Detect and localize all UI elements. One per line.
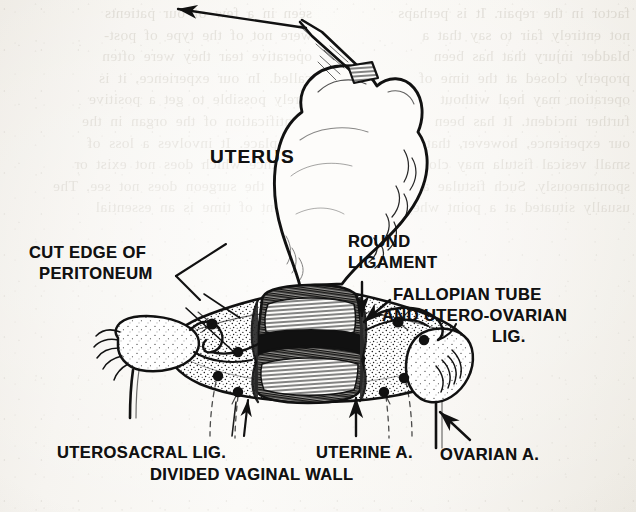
label-cut-edge-of: CUT EDGE OF bbox=[29, 244, 146, 261]
label-round: ROUND bbox=[348, 233, 411, 250]
illustration-figure: seen in a few of our patients were not o… bbox=[0, 0, 636, 512]
traction-arrow bbox=[178, 9, 306, 28]
label-uterus: UTERUS bbox=[210, 147, 295, 167]
label-and-utero-ovarian: AND UTERO-OVARIAN bbox=[382, 307, 567, 324]
label-ligament: LIGAMENT bbox=[348, 254, 437, 271]
leader-cut-edge-lower bbox=[176, 276, 200, 300]
label-divided-vaginal-wall: DIVIDED VAGINAL WALL bbox=[150, 466, 354, 483]
label-lig: LIG. bbox=[492, 328, 526, 345]
label-uterine-artery: UTERINE A. bbox=[316, 444, 413, 461]
label-peritoneum: PERITONEUM bbox=[39, 265, 153, 282]
label-fallopian-tube: FALLOPIAN TUBE bbox=[393, 286, 542, 303]
label-uterosacral-lig: UTEROSACRAL LIG. bbox=[57, 444, 226, 461]
leader-cut-edge-upper bbox=[176, 244, 226, 276]
label-ovarian-artery: OVARIAN A. bbox=[440, 446, 539, 463]
uterosacral-arrow bbox=[244, 400, 248, 436]
ovarian-artery-arrow bbox=[440, 412, 470, 440]
tenaculum-clamp bbox=[300, 20, 378, 83]
divided-vaginal-wall bbox=[252, 285, 367, 403]
